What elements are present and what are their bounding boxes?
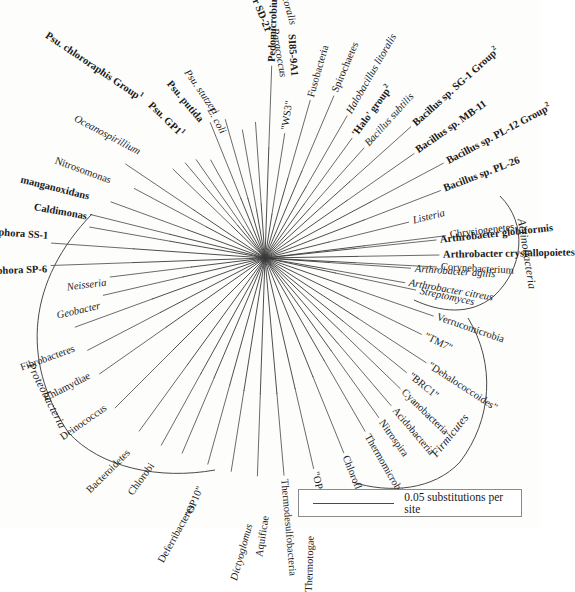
tree-leader-line [306,116,347,187]
tree-branch [265,179,288,258]
tree-leader-line [338,343,391,405]
tree-leader-line [111,202,188,230]
taxon-label: Thermotogae [304,536,316,592]
tree-branch [265,258,331,351]
tree-leader-line [348,298,422,334]
tree-leader-line [257,394,260,476]
scale-bar-line [313,503,394,504]
tree-leader-line [343,321,407,373]
scale-bar: 0.05 substitutions per site [298,489,522,517]
tree-leader-line [182,378,214,453]
tree-branch [265,258,357,318]
tree-branch [230,258,265,385]
tree-branch [265,258,277,394]
tree-leader-line [357,318,426,363]
taxon-label: SI85-9A1 [286,34,299,77]
tree-leader-line [242,130,256,211]
tree-branch [173,258,265,350]
tree-leader-line [231,390,244,471]
tree-leader-line [357,255,439,256]
tree-leader-line [110,267,191,277]
taxon-label-text: Thermotogae [303,536,316,592]
tree-leader-line [272,134,285,215]
tree-leader-line [211,160,251,232]
tree-branch [265,258,343,321]
tree-leader-line [52,243,134,249]
taxon-label: Arthrobacter crystallopoietes [443,247,575,260]
tree-branch [265,148,269,258]
tree-leader-line [161,373,201,445]
tree-leader-line [347,154,414,201]
tree-leader-line [313,377,344,453]
tree-leader-line [225,120,248,199]
tree-leader-line [256,122,262,204]
tree-leader-line [115,350,173,408]
taxon-label-text: Dictyoglomus [228,523,254,582]
tree-leader-line [309,148,364,209]
tree-leader-line [139,365,187,431]
tree-leader-line [208,385,230,464]
tree-leader-line [329,222,409,242]
tree-leader-line [304,138,352,204]
tree-leader-line [51,263,133,266]
tree-leader-line [90,227,171,241]
tree-leader-line [90,215,170,235]
tree-branch [265,258,324,360]
tree-leader-line [355,240,437,249]
tree-leader-line [126,164,194,210]
taxon-label-text: Arthrobacter crystallopoietes [443,246,575,259]
tree-leader-line [88,313,161,351]
tree-branch [260,258,265,394]
tree-branch [194,210,265,258]
tree-leader-line [324,268,405,282]
tree-branch [152,258,265,299]
tree-branch [265,258,295,389]
taxon-label: Dictyoglomus [229,523,255,582]
tree-leader-line [302,96,334,172]
tree-branch [265,258,348,298]
tree-leader-line [335,273,415,290]
tree-leader-line [277,394,284,476]
tree-branch [265,258,313,377]
scale-bar-label: 0.05 substitutions per site [404,491,521,515]
tree-leader-line [324,360,365,431]
tree-leader-line [295,389,314,469]
tree-leader-line [364,236,445,246]
tree-leader-line [269,66,272,148]
tree-leader-line [371,163,443,202]
tree-branch [160,258,265,313]
